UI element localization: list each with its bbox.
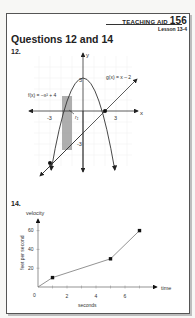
velocity-axis-label: velocity	[26, 210, 45, 216]
x-tick-label-0: 0	[33, 292, 36, 298]
x-axis-title: seconds	[78, 302, 97, 308]
time-axis-label: time	[161, 285, 171, 291]
x-tick-label-6: 6	[124, 293, 127, 299]
velocity-chart: velocity time feet per second seconds 0 …	[0, 0, 195, 318]
data-point	[51, 276, 54, 279]
y-axis-title: feet per second	[19, 235, 25, 270]
data-point	[109, 257, 112, 260]
data-point	[138, 229, 141, 232]
y-tick-label-40: 40	[28, 246, 34, 252]
x-tick-label-2: 2	[66, 293, 69, 299]
y-tick-label-20: 20	[28, 265, 34, 271]
y-tick-label-60: 60	[28, 227, 34, 233]
x-tick-label-4: 4	[95, 293, 98, 299]
